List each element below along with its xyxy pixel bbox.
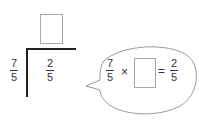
bubble-answer-box[interactable] [134,58,156,88]
bubble-right-denominator: 5 [171,72,177,83]
equals-sign: = [158,65,165,77]
bubble-right-fraction: 2 5 [170,58,178,83]
divisor-denominator: 5 [11,72,17,83]
bubble-left-denominator: 5 [107,72,113,83]
dividend-fraction: 2 5 [46,58,54,83]
times-sign: × [121,66,128,78]
bubble-left-numerator: 7 [107,58,113,69]
bubble-left-fraction: 7 5 [106,58,114,83]
divisor-numerator: 7 [11,58,17,69]
division-bracket-side [26,48,28,97]
dividend-denominator: 5 [47,72,53,83]
quotient-answer-box[interactable] [40,14,63,44]
division-bracket-top [26,48,76,50]
dividend-numerator: 2 [47,58,53,69]
divisor-fraction: 7 5 [10,58,18,83]
bubble-right-numerator: 2 [171,58,177,69]
